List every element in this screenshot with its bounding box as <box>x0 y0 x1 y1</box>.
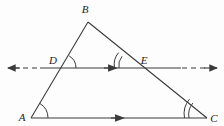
vertex-label-E: E <box>140 54 148 66</box>
angle-arc-D-1 <box>69 56 76 68</box>
side-AB <box>31 22 88 118</box>
angle-arc-E-1 <box>119 56 122 68</box>
vertex-label-D: D <box>48 54 57 66</box>
diagram-canvas: A B C D E <box>0 0 224 126</box>
angle-mark-C <box>184 99 193 118</box>
angle-arc-C-1 <box>189 103 193 118</box>
triangle-sides <box>31 22 207 118</box>
vertex-label-A: A <box>18 111 26 123</box>
vertex-label-C: C <box>210 112 218 124</box>
side-BC <box>88 22 207 118</box>
angle-arc-A-1 <box>40 103 48 118</box>
angle-arc-E-2 <box>114 53 118 68</box>
angle-mark-E <box>114 53 122 68</box>
angle-mark-D <box>69 56 76 68</box>
angle-mark-A <box>40 103 48 118</box>
geometry-diagram: A B C D E <box>0 0 224 126</box>
vertex-label-B: B <box>82 3 89 15</box>
